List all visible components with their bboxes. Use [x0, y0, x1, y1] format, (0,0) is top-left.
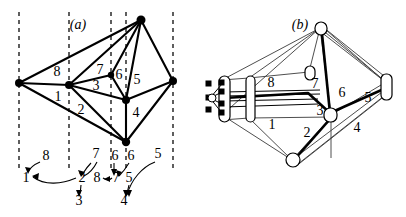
b-face-label-7: 7: [312, 76, 319, 91]
pin-block-7: [206, 107, 211, 112]
joint-sleeve-mid: [246, 76, 255, 122]
panel-a: (a) 8 1 2 3 7 6 5 4: [15, 12, 177, 208]
b-rail-1: [224, 90, 320, 92]
face-label-4: 4: [133, 105, 140, 120]
b-thin-right-1: [323, 27, 389, 80]
face-label-8: 8: [54, 64, 61, 79]
b-face-label-6: 6: [339, 85, 346, 100]
b-chain-up: [322, 34, 330, 113]
joint-sleeve-apex: [315, 22, 327, 35]
b-rail-3: [224, 99, 318, 101]
face-label-3: 3: [93, 78, 100, 93]
panel-a-caption: (a): [70, 17, 87, 33]
arrow-label-6-top-b: 6: [128, 148, 135, 163]
face-label-1: 1: [55, 89, 62, 104]
edge-left-hub: [19, 83, 69, 85]
node-bottom: [122, 138, 130, 146]
b-face-label-5: 5: [365, 90, 372, 105]
arrow-label-7-mid: 7: [113, 170, 120, 185]
arrow-label-5-top: 5: [155, 146, 162, 161]
pin-block-2: [219, 89, 224, 94]
node-top: [137, 16, 146, 25]
arrow-label-6-top-a: 6: [112, 148, 119, 163]
pin-hub: [208, 94, 216, 102]
panel-b: (b) 8 7 6 5 3 1 2 4: [206, 17, 392, 167]
node-hub: [65, 81, 73, 89]
leader-1-to-2: [33, 177, 76, 183]
panel-b-caption: (b): [292, 17, 309, 33]
arrowhead-7: [104, 176, 110, 182]
edge-top-right: [141, 20, 173, 81]
face-label-5: 5: [134, 72, 141, 87]
arrow-label-8-top: 8: [43, 148, 50, 163]
face-label-7: 7: [97, 62, 104, 77]
face-label-2: 2: [78, 102, 85, 117]
node-left: [15, 79, 23, 87]
arrow-label-8-mid: 8: [94, 170, 101, 185]
arrow-label-5-mid: 5: [126, 170, 133, 185]
leader-8-to-1: [28, 162, 40, 172]
b-face-label-4: 4: [354, 120, 361, 135]
arrow-label-3: 3: [76, 193, 83, 208]
pin-block-4: [219, 110, 224, 115]
node-small7: [108, 72, 114, 78]
b-thin-right-5: [321, 32, 388, 84]
joint-sleeve-knee: [324, 108, 337, 122]
b-thin-fan-3: [222, 115, 292, 160]
node-right: [169, 77, 177, 85]
joint-sleeve-low: [286, 153, 300, 167]
edge-bottom-left: [19, 83, 126, 142]
b-face-label-8: 8: [268, 75, 275, 90]
b-thin-top-2: [249, 72, 309, 78]
node-center: [122, 96, 130, 104]
figure-container: (a) 8 1 2 3 7 6 5 4: [0, 0, 406, 217]
panel-a-leader-arrows: [28, 162, 155, 196]
pin-block-5: [206, 81, 211, 86]
b-face-label-1: 1: [269, 117, 276, 132]
b-thin-right-3: [298, 92, 389, 164]
b-rail-4: [224, 104, 318, 107]
b-face-label-2: 2: [304, 125, 311, 140]
panel-a-arrow-labels: 8 7 6 6 5 1 2 8 7 5 3 4: [23, 146, 162, 208]
arrow-label-7-top: 7: [93, 146, 100, 161]
arrow-label-2: 2: [79, 170, 86, 185]
figure-svg: (a) 8 1 2 3 7 6 5 4: [0, 0, 406, 217]
arrow-label-1: 1: [23, 170, 30, 185]
b-chain-left: [224, 93, 330, 113]
arrow-label-4: 4: [121, 193, 128, 208]
pin-block-3: [219, 101, 224, 106]
b-face-label-3: 3: [317, 103, 324, 118]
pin-block-1: [219, 80, 224, 85]
joint-sleeve-right: [381, 74, 392, 100]
face-label-6: 6: [116, 67, 123, 82]
